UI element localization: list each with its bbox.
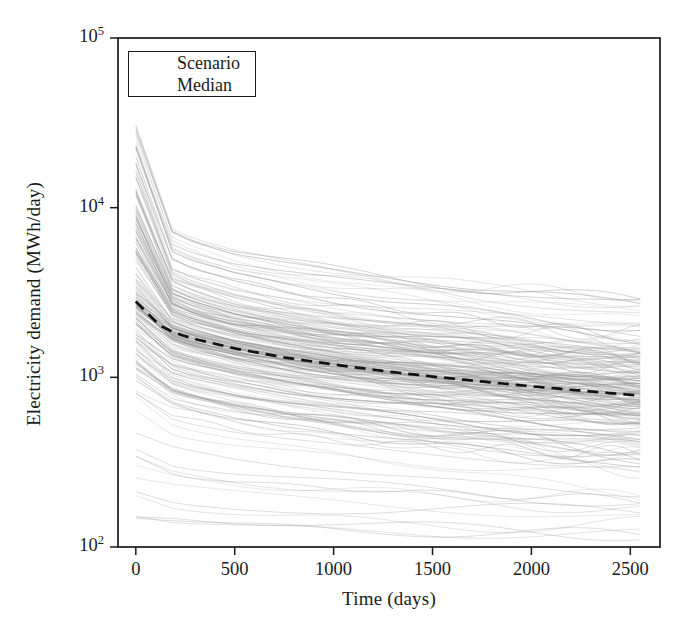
y-tick-label: 105	[40, 24, 104, 47]
x-tick-label: 0	[96, 559, 176, 580]
x-tick-label: 500	[195, 559, 275, 580]
x-axis-label: Time (days)	[118, 588, 660, 610]
legend-entry-median: Median	[129, 74, 257, 97]
x-tick-label: 1000	[294, 559, 374, 580]
y-axis-label: Electricity demand (MWh/day)	[23, 144, 45, 464]
chart-figure: Electricity demand (MWh/day) Time (days)…	[0, 0, 697, 638]
x-tick-label: 1500	[393, 559, 473, 580]
y-tick-label: 102	[40, 533, 104, 556]
legend-entry-scenario: Scenario	[129, 52, 257, 75]
x-tick-label: 2000	[491, 559, 571, 580]
legend: Scenario Median	[128, 51, 256, 97]
legend-label-scenario: Scenario	[177, 52, 240, 75]
y-tick-label: 103	[40, 363, 104, 386]
legend-label-median: Median	[177, 74, 232, 97]
plot-canvas	[0, 0, 697, 638]
x-tick-label: 2500	[590, 559, 670, 580]
y-tick-label: 104	[40, 194, 104, 217]
